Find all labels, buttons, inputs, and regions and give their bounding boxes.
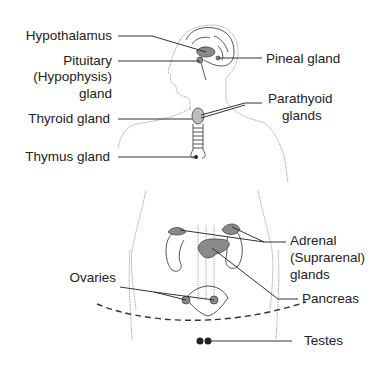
label-pancreas: Pancreas	[302, 291, 359, 307]
testis-left	[197, 338, 204, 345]
label-parathyroid-line2: glands	[282, 108, 322, 124]
label-pituitary-line1: Pituitary	[0, 53, 112, 69]
label-thymus: Thymus gland	[0, 149, 110, 165]
label-pituitary-line2: (Hypophysis)	[0, 69, 112, 85]
label-pituitary-line3: gland	[0, 86, 112, 102]
label-adrenal-line3: glands	[290, 267, 330, 283]
brain	[186, 28, 234, 81]
throat	[191, 108, 205, 159]
label-testes: Testes	[304, 333, 343, 349]
pancreas-gland	[198, 239, 229, 258]
pituitary-gland	[197, 57, 203, 63]
label-parathyroid-line1: Parathyoid	[268, 91, 333, 107]
label-hypothalamus: Hypothalamus	[0, 28, 112, 44]
abdomen	[166, 224, 242, 345]
label-adrenal-line1: Adrenal	[290, 233, 337, 249]
label-adrenal-line2: (Suprarenal)	[290, 250, 365, 266]
label-thyroid: Thyroid gland	[0, 111, 110, 127]
label-ovaries: Ovaries	[0, 270, 116, 286]
body-outline	[118, 25, 288, 340]
left-adrenal-gland	[168, 228, 186, 236]
dashed-divider	[97, 302, 306, 320]
label-pineal: Pineal gland	[266, 51, 340, 67]
thyroid-gland	[192, 108, 204, 124]
